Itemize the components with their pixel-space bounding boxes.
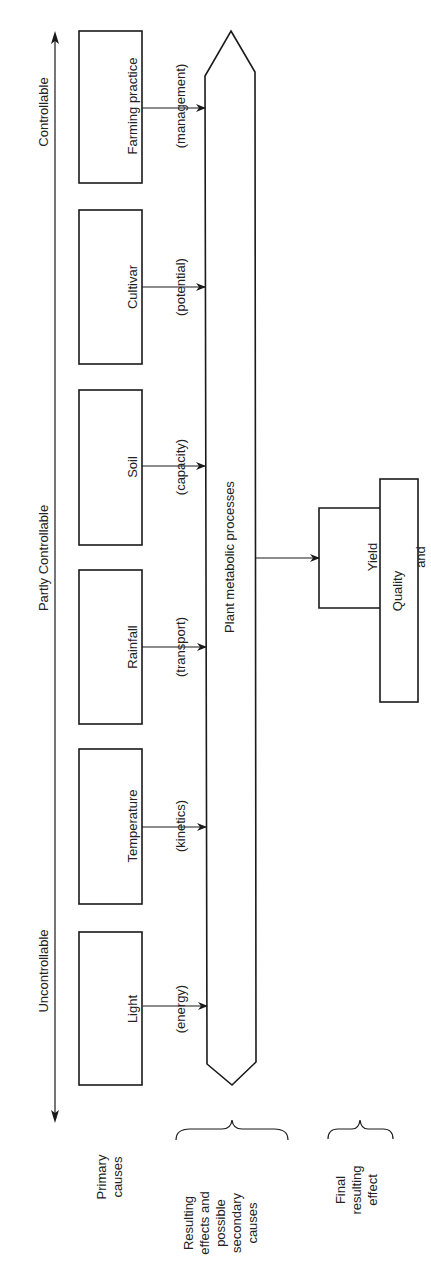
diagram-shapes [0,0,431,1275]
cause-soil: Soil (capacity) [93,412,127,522]
cause-name: Farming practice [125,31,141,181]
outcome-quality: Quality [390,556,408,626]
process-label: Plant metabolic processes [222,457,240,657]
cause-detail: (transport) [173,592,189,702]
brace-final [328,1120,393,1139]
brace-secondary [176,1120,288,1140]
cause-name: Temperature [125,771,141,881]
cause-light: Light (energy) [93,954,127,1064]
cause-detail: (potential) [173,232,189,342]
legend-secondary-causes: Resulting effects and possible secondary… [181,1173,263,1273]
legend-primary-causes: Primary causes [94,1142,128,1212]
label-uncontrollable: Uncontrollable [36,906,54,1036]
outcome-yield-and: Yield and [333,527,367,587]
cause-name: Cultivar [125,232,141,342]
outcome-yield: Yield [365,527,381,587]
cause-detail: (management) [173,31,189,181]
cause-farming-practice: Farming practice (management) [93,31,127,181]
legend-final-effect: Final resulting effect [333,1150,383,1230]
cause-detail: (capacity) [173,412,189,522]
cause-detail: (kinetics) [173,771,189,881]
label-partly-controllable: Partly Controllable [36,473,54,643]
label-controllable: Controllable [36,57,54,167]
cause-name: Soil [125,412,141,522]
cause-cultivar: Cultivar (potential) [93,232,127,342]
cause-rainfall: Rainfall (transport) [93,592,127,702]
cause-name: Rainfall [125,592,141,702]
cause-name: Light [125,954,141,1064]
outcome-and: and [413,527,429,587]
cause-temperature: Temperature (kinetics) [93,771,127,881]
cause-detail: (energy) [173,954,189,1064]
